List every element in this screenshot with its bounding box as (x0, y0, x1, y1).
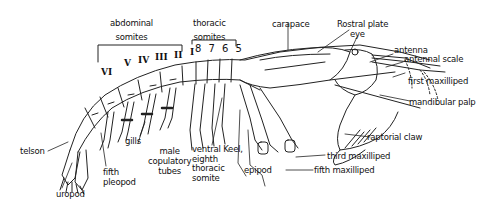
label-epipod: epipod (244, 166, 272, 175)
label-telson: telson (20, 147, 45, 156)
thoracic-somites-label: thoracic somites (193, 19, 226, 42)
abdominal-word: abdominal (110, 19, 153, 28)
male-tubes-line1: male (148, 146, 191, 156)
somites-word-2: somites (193, 33, 226, 42)
abdominal-numeral-iv: IV (138, 55, 149, 65)
label-raptorial-claw: raptorial claw (367, 133, 422, 142)
abdominal-numeral-i: I (190, 47, 194, 57)
abdominal-somites-label: abdominal somites (110, 19, 153, 42)
ventral-keel-line4: somite (192, 174, 243, 184)
abdominal-numeral-ii: II (174, 50, 182, 60)
label-gills: gills (125, 137, 141, 146)
male-tubes-line2: copulatory (148, 156, 191, 166)
label-male-copulatory-tubes: male copulatory tubes (148, 146, 191, 176)
label-carapace: carapace (272, 20, 310, 29)
label-mandibular-palp: mandibular palp (409, 98, 476, 107)
label-first-maxilliped: first maxilliped (408, 77, 468, 86)
abdominal-numeral-vi: VI (101, 67, 112, 77)
label-fifth-maxilliped: fifth maxilliped (314, 166, 374, 175)
label-uropod: uropod (56, 190, 85, 199)
abdominal-numeral-iii: III (155, 52, 168, 62)
abdominal-numeral-v: V (124, 58, 131, 68)
fifth-pleopod-line2: pleopod (103, 177, 136, 187)
label-rostral-plate: Rostral plate (337, 20, 388, 29)
somites-word: somites (110, 33, 153, 42)
fifth-pleopod-line1: fifth (103, 167, 136, 177)
thoracic-numerals: 8 7 6 5 (195, 43, 244, 54)
male-tubes-line3: tubes (148, 166, 191, 176)
label-eye: eye (350, 30, 365, 39)
thoracic-word: thoracic (193, 19, 226, 28)
label-ventral-keel: ventral Keel, eighth thoracic somite (192, 145, 243, 183)
label-antennal-scale: antennal scale (404, 55, 463, 64)
label-third-maxilliped: third maxilliped (327, 152, 390, 161)
tail-fan (60, 150, 88, 194)
label-fifth-pleopod: fifth pleopod (103, 167, 136, 187)
